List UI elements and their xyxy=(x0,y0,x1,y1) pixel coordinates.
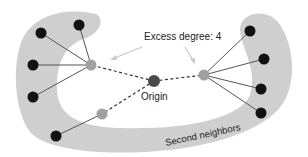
origin-label: Origin xyxy=(141,91,168,102)
network-diagram: Excess degree: 4 Origin Second neighbors xyxy=(0,0,308,157)
node xyxy=(199,70,210,81)
node xyxy=(86,60,97,71)
node xyxy=(51,131,62,142)
first-neighbor-edges xyxy=(91,65,204,114)
node xyxy=(74,20,85,31)
node xyxy=(256,108,267,119)
arrowhead-right-icon xyxy=(190,58,195,64)
arrowhead-left-icon xyxy=(110,55,117,60)
node xyxy=(28,92,39,103)
node xyxy=(97,109,108,120)
node xyxy=(36,28,47,39)
arrow-left xyxy=(112,47,142,59)
excess-degree-label: Excess degree: 4 xyxy=(144,31,222,42)
origin-node xyxy=(148,75,160,87)
node xyxy=(256,84,267,95)
node xyxy=(259,54,270,65)
node xyxy=(28,60,39,71)
node xyxy=(245,26,256,37)
